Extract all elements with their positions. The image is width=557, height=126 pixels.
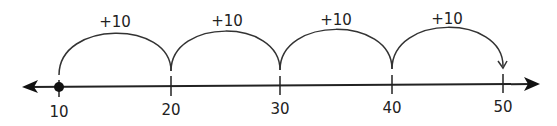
jump-arc-4 — [392, 27, 503, 69]
jump-arc-3 — [280, 29, 392, 70]
number-line-svg: 10 20 30 40 50 +10 +10 +10 +10 — [0, 0, 557, 126]
jump-arc-1 — [59, 33, 171, 75]
jump-arc-2 — [171, 31, 280, 71]
tick-label-10: 10 — [49, 103, 68, 121]
jump-label-4: +10 — [431, 10, 463, 28]
number-line-diagram: 10 20 30 40 50 +10 +10 +10 +10 — [0, 0, 557, 126]
tick-label-20: 20 — [161, 101, 180, 119]
jump-label-2: +10 — [211, 12, 243, 30]
tick-label-50: 50 — [493, 98, 512, 116]
jump-label-1: +10 — [99, 13, 131, 31]
start-point-dot — [54, 82, 64, 92]
tick-label-40: 40 — [382, 99, 401, 117]
jump-label-3: +10 — [320, 11, 352, 29]
tick-label-30: 30 — [270, 100, 289, 118]
jump-arcs — [59, 27, 503, 75]
